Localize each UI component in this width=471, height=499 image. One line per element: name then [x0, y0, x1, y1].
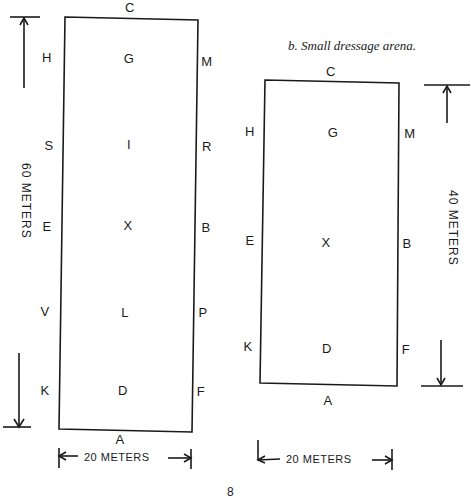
large-arena-marker-left-1: H	[42, 51, 52, 64]
large-arena-marker-right-1: M	[201, 55, 212, 68]
large-arena-length-label: 60 METERS	[19, 163, 33, 239]
page-number: 8	[227, 485, 234, 499]
small-arena-marker-right-2: B	[402, 237, 411, 250]
figure-caption: b. Small dressage arena.	[288, 38, 416, 54]
small-arena-marker-right-3: F	[402, 343, 410, 356]
small-arena-marker-left-1: H	[245, 125, 255, 138]
large-arena-marker-right-3: B	[201, 221, 210, 234]
large-arena-marker-center-2: I	[127, 138, 131, 151]
large-arena-marker-left-5: K	[40, 384, 49, 397]
small-arena-marker-right-1: M	[404, 127, 415, 140]
large-arena-width-label: 20 METERS	[84, 451, 150, 463]
large-arena-marker-right-2: R	[202, 140, 212, 153]
small-arena-marker-center-1: G	[328, 126, 339, 139]
large-arena-marker-right-5: F	[197, 385, 205, 398]
large-arena-marker-left-3: E	[42, 220, 51, 233]
large-arena-marker-center-4: L	[121, 306, 129, 319]
small-arena-length-label: 40 METERS	[446, 190, 460, 266]
large-arena-marker-left-4: V	[40, 305, 49, 318]
small-arena-marker-left-3: K	[243, 340, 252, 353]
small-arena-marker-center-3: D	[322, 342, 332, 355]
small-arena-marker-top: C	[326, 65, 336, 78]
large-arena-marker-center-1: G	[124, 52, 135, 65]
large-arena-marker-center-3: X	[123, 219, 132, 232]
large-arena-marker-bottom: A	[115, 433, 124, 446]
large-arena-marker-center-5: D	[118, 384, 128, 397]
large-arena-marker-left-2: S	[44, 139, 53, 152]
small-arena-width-label: 20 METERS	[286, 453, 352, 465]
large-arena-marker-right-4: P	[198, 306, 207, 319]
small-arena-marker-left-2: E	[245, 234, 254, 247]
small-arena-marker-center-2: X	[321, 236, 330, 249]
small-arena-marker-bottom: A	[323, 394, 332, 407]
large-arena-marker-top: C	[125, 1, 135, 14]
